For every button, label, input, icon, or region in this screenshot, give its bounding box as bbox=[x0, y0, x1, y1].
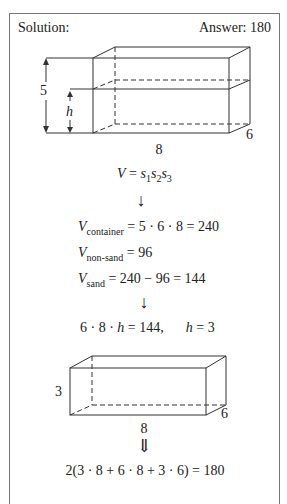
surface-area-result: 2(3 · 8 + 6 · 8 + 3 · 6) = 180 bbox=[66, 464, 225, 478]
double-arrow-down: ⇓ bbox=[136, 437, 151, 455]
height-label-3: 3 bbox=[55, 385, 62, 399]
width-label-6b: 6 bbox=[221, 407, 228, 421]
length-label-8b: 8 bbox=[141, 422, 148, 436]
